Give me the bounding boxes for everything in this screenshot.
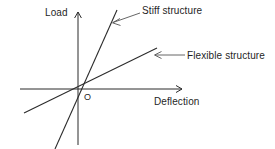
origin-label: O	[84, 91, 91, 103]
flexible-structure-line	[24, 48, 157, 113]
stiff-structure-pointer-arrowhead	[113, 19, 121, 26]
diagram-canvas	[0, 0, 275, 149]
y-axis-label: Load	[45, 7, 68, 19]
x-axis-label: Deflection	[154, 96, 199, 108]
load-deflection-diagram: Load Stiff structure Flexible structure …	[0, 0, 275, 149]
stiff-structure-pointer-line	[113, 13, 140, 23]
flexible-structure-label: Flexible structure	[187, 50, 265, 62]
stiff-structure-line	[55, 10, 117, 149]
stiff-structure-label: Stiff structure	[142, 5, 202, 17]
